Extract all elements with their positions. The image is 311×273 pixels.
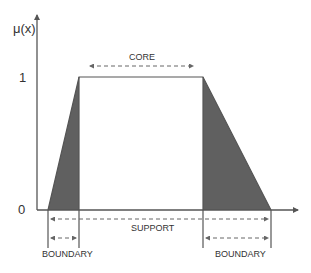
support-label: SUPPORT	[131, 223, 175, 233]
y-tick-0: 0	[18, 202, 25, 217]
y-axis-label: μ(x)	[13, 21, 36, 36]
boundary-right-label: BOUNDARY	[215, 249, 266, 259]
y-tick-1: 1	[19, 70, 26, 85]
boundary-left-label: BOUNDARY	[42, 249, 93, 259]
core-label: CORE	[129, 52, 155, 62]
membership-diagram: μ(x) 1 0 CORE SUPPORT BOUNDARY BOUNDARY	[0, 0, 311, 273]
